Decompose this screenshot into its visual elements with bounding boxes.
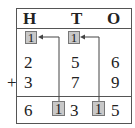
carry-arrows bbox=[0, 0, 135, 128]
carry-arrow-hundreds-icon bbox=[42, 37, 59, 101]
carry-arrow-tens-icon bbox=[84, 37, 99, 101]
